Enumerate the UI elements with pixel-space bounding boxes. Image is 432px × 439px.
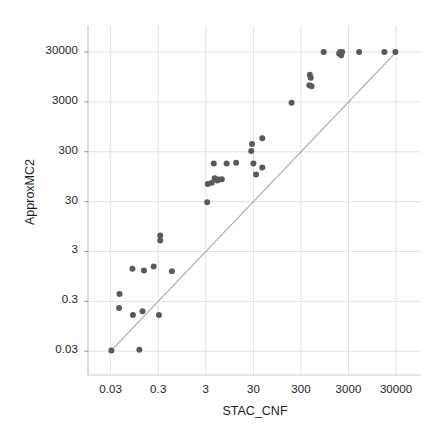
y-tick-label: 0.03 xyxy=(0,343,78,355)
data-point xyxy=(259,135,265,141)
y-tick-label: 30 xyxy=(0,194,78,206)
y-tick-label: 30000 xyxy=(0,44,78,56)
data-point xyxy=(321,49,327,55)
x-tick-label: 30000 xyxy=(366,383,426,395)
y-tick-label: 0.3 xyxy=(0,293,78,305)
data-point xyxy=(136,347,142,353)
data-point xyxy=(117,291,123,297)
y-tick-label: 3 xyxy=(0,243,78,255)
data-point xyxy=(248,148,254,154)
x-axis-title: STAC_CNF xyxy=(88,404,422,418)
data-point xyxy=(219,176,225,182)
data-point xyxy=(339,49,345,55)
data-point xyxy=(151,264,157,270)
data-point xyxy=(259,165,265,171)
y-tick-label: 3000 xyxy=(0,94,78,106)
data-point xyxy=(308,75,314,81)
data-point xyxy=(356,49,362,55)
data-point xyxy=(130,312,136,318)
plot-canvas xyxy=(0,0,432,439)
data-point xyxy=(392,49,398,55)
data-point xyxy=(169,268,175,274)
data-point xyxy=(309,83,315,89)
data-point xyxy=(141,267,147,273)
data-point xyxy=(233,160,239,166)
data-point xyxy=(129,266,135,272)
data-point xyxy=(253,172,259,178)
data-point xyxy=(289,100,295,106)
data-point xyxy=(204,199,210,205)
data-point xyxy=(381,49,387,55)
data-point xyxy=(116,305,122,311)
data-point xyxy=(211,160,217,166)
data-point xyxy=(156,312,162,318)
data-point xyxy=(249,141,255,147)
data-point xyxy=(224,160,230,166)
y-tick-label: 300 xyxy=(0,144,78,156)
data-point xyxy=(157,232,163,238)
data-point xyxy=(140,308,146,314)
data-point xyxy=(250,160,256,166)
y-axis-title: ApproxMC2 xyxy=(23,132,37,252)
scatter-chart: 0.030.3330300300030000 0.030.33303003000… xyxy=(0,0,432,439)
data-point xyxy=(108,348,114,354)
